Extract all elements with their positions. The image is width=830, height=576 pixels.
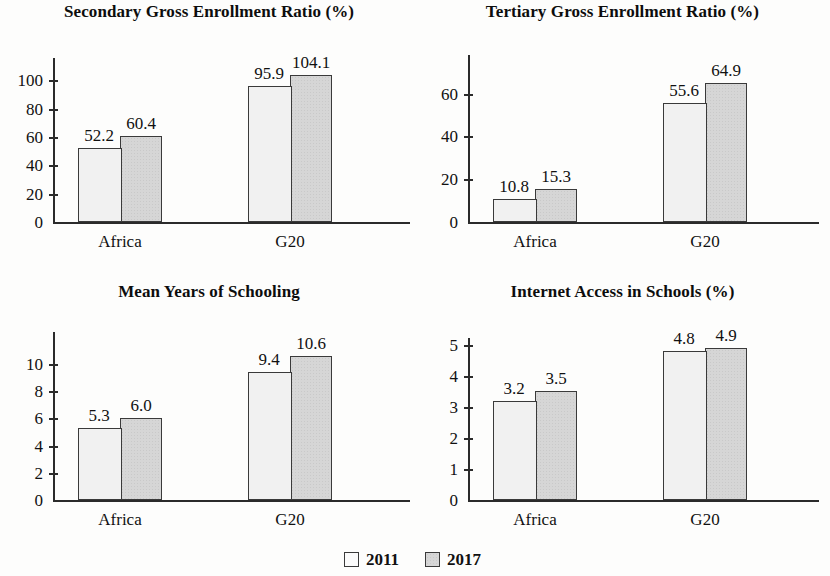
x-axis-category-label: G20 xyxy=(230,511,350,528)
y-axis-tick xyxy=(464,469,473,471)
y-axis-tick-label: 2 xyxy=(3,465,43,482)
y-axis-tick-label: 2 xyxy=(418,430,458,447)
y-axis-tick-label: 5 xyxy=(418,337,458,354)
y-axis-tick-label: 0 xyxy=(3,214,43,231)
y-axis-tick xyxy=(464,345,473,347)
chart-panel-tertiary-enrollment: Tertiary Gross Enrollment Ratio (%) 0204… xyxy=(415,0,830,262)
y-axis-tick-label: 0 xyxy=(3,492,43,509)
chart-panel-mean-years-schooling: Mean Years of Schooling 02468105.36.0Afr… xyxy=(0,280,418,538)
x-axis-category-label: Africa xyxy=(60,233,180,250)
y-axis-tick xyxy=(49,80,58,82)
bar-2011-africa xyxy=(78,428,122,500)
y-axis-tick-label: 3 xyxy=(418,399,458,416)
y-axis-tick-label: 20 xyxy=(418,171,458,188)
y-axis-tick-label: 40 xyxy=(3,157,43,174)
x-axis-category-label: Africa xyxy=(475,233,595,250)
y-axis-line xyxy=(468,338,470,502)
legend-item-label: 2017 xyxy=(447,551,481,568)
figure-page: Secondary Gross Enrollment Ratio (%) 020… xyxy=(0,0,830,576)
y-axis-tick-label: 0 xyxy=(418,214,458,231)
plot-area: 020406010.815.3Africa55.664.9G20 xyxy=(415,0,830,262)
y-axis-tick-label: 60 xyxy=(418,86,458,103)
bar-value-label: 104.1 xyxy=(281,54,341,71)
bar-value-label: 4.9 xyxy=(696,327,756,344)
bar-2011-g20 xyxy=(248,86,292,222)
y-axis-tick xyxy=(49,446,58,448)
gray-square-swatch-icon xyxy=(425,552,440,567)
y-axis-tick-label: 10 xyxy=(3,356,43,373)
bar-value-label: 15.3 xyxy=(526,168,586,185)
x-axis-category-label: G20 xyxy=(230,233,350,250)
plot-area: 02040608010052.260.4Africa95.9104.1G20 xyxy=(0,0,418,262)
bar-2011-africa xyxy=(493,401,537,500)
y-axis-tick xyxy=(49,194,58,196)
y-axis-tick xyxy=(49,137,58,139)
y-axis-tick xyxy=(464,94,473,96)
bar-2017-g20 xyxy=(290,75,332,222)
bar-2017-africa xyxy=(535,391,577,500)
y-axis-tick xyxy=(49,165,58,167)
y-axis-line xyxy=(53,58,55,224)
y-axis-tick-label: 100 xyxy=(3,72,43,89)
y-axis-tick-label: 1 xyxy=(418,461,458,478)
y-axis-tick xyxy=(464,407,473,409)
y-axis-tick-label: 4 xyxy=(3,438,43,455)
y-axis-tick-label: 6 xyxy=(3,410,43,427)
legend-item-2011: 2011 xyxy=(344,551,399,568)
bar-value-label: 10.6 xyxy=(281,335,341,352)
x-axis-line xyxy=(468,500,819,502)
y-axis-tick xyxy=(49,364,58,366)
bar-2011-g20 xyxy=(663,103,707,222)
y-axis-tick xyxy=(49,109,58,111)
y-axis-line xyxy=(468,55,470,224)
y-axis-tick-label: 20 xyxy=(3,186,43,203)
y-axis-tick xyxy=(49,418,58,420)
y-axis-tick xyxy=(464,438,473,440)
plot-area: 0123453.23.5Africa4.84.9G20 xyxy=(415,280,830,538)
bar-2011-g20 xyxy=(248,372,292,500)
bar-2011-g20 xyxy=(663,351,707,500)
chart-grid: Secondary Gross Enrollment Ratio (%) 020… xyxy=(0,0,830,576)
y-axis-tick xyxy=(49,473,58,475)
x-axis-line xyxy=(53,222,410,224)
plot-area: 02468105.36.0Africa9.410.6G20 xyxy=(0,280,418,538)
y-axis-line xyxy=(53,332,55,502)
x-axis-line xyxy=(53,500,410,502)
legend-item-2017: 2017 xyxy=(425,551,481,568)
y-axis-tick-label: 60 xyxy=(3,129,43,146)
y-axis-tick-label: 8 xyxy=(3,383,43,400)
y-axis-tick-label: 80 xyxy=(3,101,43,118)
white-square-swatch-icon xyxy=(344,552,359,567)
bar-value-label: 60.4 xyxy=(111,115,171,132)
x-axis-line xyxy=(468,222,819,224)
x-axis-category-label: Africa xyxy=(60,511,180,528)
chart-panel-internet-access: Internet Access in Schools (%) 0123453.2… xyxy=(415,280,830,538)
bar-2017-g20 xyxy=(705,83,747,222)
figure-legend: 2011 2017 xyxy=(344,551,481,568)
x-axis-category-label: G20 xyxy=(645,511,765,528)
bar-2017-africa xyxy=(535,189,577,222)
bar-2017-africa xyxy=(120,136,162,222)
chart-panel-secondary-enrollment: Secondary Gross Enrollment Ratio (%) 020… xyxy=(0,0,418,262)
bar-value-label: 64.9 xyxy=(696,62,756,79)
bar-value-label: 6.0 xyxy=(111,397,171,414)
bar-2017-africa xyxy=(120,418,162,500)
bar-2017-g20 xyxy=(290,356,332,500)
y-axis-tick-label: 0 xyxy=(418,492,458,509)
x-axis-category-label: G20 xyxy=(645,233,765,250)
y-axis-tick xyxy=(464,179,473,181)
y-axis-tick-label: 4 xyxy=(418,368,458,385)
bar-value-label: 3.5 xyxy=(526,370,586,387)
y-axis-tick xyxy=(464,376,473,378)
bar-2011-africa xyxy=(493,199,537,222)
y-axis-tick xyxy=(464,136,473,138)
legend-item-label: 2011 xyxy=(366,551,399,568)
bar-2017-g20 xyxy=(705,348,747,500)
bar-2011-africa xyxy=(78,148,122,222)
x-axis-category-label: Africa xyxy=(475,511,595,528)
y-axis-tick xyxy=(49,391,58,393)
y-axis-tick-label: 40 xyxy=(418,128,458,145)
